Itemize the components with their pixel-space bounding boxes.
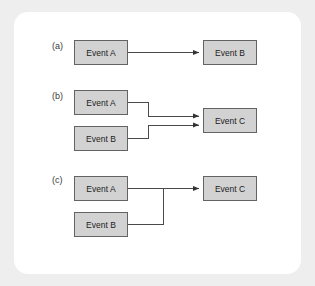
event-box-b1[interactable]: Event A [74,90,128,115]
connector-b-2 [128,125,199,139]
event-box-b2[interactable]: Event B [74,126,128,151]
event-box-a1[interactable]: Event A [74,40,128,65]
connector-b-1 [128,103,199,117]
event-box-c1[interactable]: Event A [74,176,128,201]
event-box-b3[interactable]: Event C [203,108,257,133]
event-box-c3[interactable]: Event C [203,176,257,201]
connector-c-2 [128,189,163,225]
connector-layer [128,53,199,225]
group-label-c: (c) [52,176,63,185]
group-label-b: (b) [52,92,63,101]
diagram-canvas [0,0,315,286]
event-box-a2[interactable]: Event B [203,40,257,65]
figure-root: (a) Event A Event B (b) Event A Event B … [0,0,315,286]
group-label-a: (a) [52,42,63,51]
event-box-c2[interactable]: Event B [74,212,128,237]
